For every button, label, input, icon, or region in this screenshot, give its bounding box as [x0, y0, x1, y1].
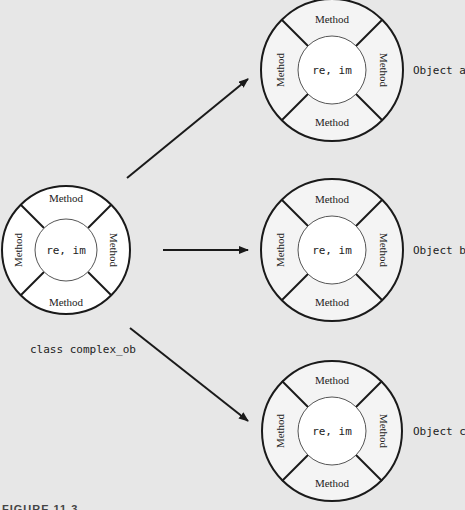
object-b-method-top: Method: [315, 193, 350, 205]
object-b-method-bottom: Method: [315, 296, 350, 308]
object-a-circle: re, im Method Method Method Method: [261, 0, 403, 141]
class-data-fields: re, im: [46, 244, 86, 257]
object-c-method-bottom: Method: [315, 477, 350, 489]
class-circle: re, im Method Method Method Method: [2, 186, 130, 314]
object-a-method-left: Method: [274, 52, 286, 87]
instantiate-arrow-c: [130, 328, 248, 421]
object-c-method-top: Method: [315, 374, 350, 386]
object-c-data-fields: re, im: [312, 425, 352, 438]
object-c-method-right: Method: [378, 414, 390, 449]
object-b-label: Object b: [413, 244, 465, 257]
object-b-data-fields: re, im: [312, 244, 352, 257]
class-method-bottom: Method: [49, 296, 84, 308]
object-a-method-bottom: Method: [315, 116, 350, 128]
class-method-left: Method: [12, 232, 24, 267]
figure-caption-cropped: FIGURE 11.3: [0, 504, 120, 510]
figure-caption-text: FIGURE 11.3: [2, 504, 78, 510]
object-a-label: Object a: [413, 64, 465, 77]
object-c-label: Object c: [413, 425, 465, 438]
class-label: class complex_ob: [30, 343, 136, 356]
class-method-top: Method: [49, 192, 84, 204]
object-b-method-right: Method: [378, 233, 390, 268]
object-a-method-top: Method: [315, 13, 350, 25]
instantiate-arrow-a: [127, 79, 248, 178]
object-b-method-left: Method: [274, 232, 286, 267]
class-method-right: Method: [108, 233, 120, 268]
object-a-method-right: Method: [378, 53, 390, 88]
class-object-diagram: re, im Method Method Method Method class…: [0, 0, 465, 510]
object-a-data-fields: re, im: [312, 64, 352, 77]
object-c-method-left: Method: [274, 413, 286, 448]
object-b-circle: re, im Method Method Method Method: [261, 179, 403, 321]
object-c-circle: re, im Method Method Method Method: [262, 361, 402, 501]
